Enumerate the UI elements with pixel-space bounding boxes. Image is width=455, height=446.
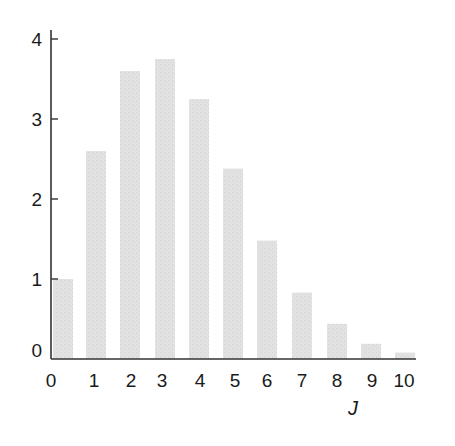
x-axis-title: J — [347, 397, 359, 419]
bar-7 — [292, 293, 312, 359]
bar-8 — [327, 324, 347, 359]
bars-group — [53, 59, 415, 359]
x-tick-label: 1 — [89, 370, 100, 391]
x-tick-label: 3 — [157, 370, 168, 391]
bar-1 — [86, 151, 106, 359]
y-tick-label: 4 — [31, 29, 42, 50]
y-tick-label: 1 — [31, 269, 42, 290]
x-tick-label: 10 — [393, 370, 414, 391]
x-ticks-group: 012345678910 — [46, 370, 415, 391]
bar-chart: 01234 012345678910 J — [0, 0, 455, 446]
x-tick-label: 7 — [297, 370, 308, 391]
y-tick-label: 3 — [31, 109, 42, 130]
x-tick-label: 4 — [195, 370, 206, 391]
bar-6 — [257, 241, 277, 359]
bar-0 — [53, 279, 73, 359]
x-tick-label: 2 — [126, 370, 137, 391]
x-tick-label: 9 — [367, 370, 378, 391]
bar-5 — [223, 169, 243, 359]
x-tick-label: 8 — [332, 370, 343, 391]
x-tick-label: 0 — [46, 370, 57, 391]
y-tick-label: 2 — [31, 189, 42, 210]
bar-2 — [120, 71, 140, 359]
x-tick-label: 6 — [262, 370, 273, 391]
bar-4 — [189, 99, 209, 359]
bar-10 — [395, 353, 415, 359]
y-tick-label: 0 — [31, 340, 42, 361]
bar-9 — [361, 344, 381, 359]
bar-3 — [155, 59, 175, 359]
x-tick-label: 5 — [230, 370, 241, 391]
